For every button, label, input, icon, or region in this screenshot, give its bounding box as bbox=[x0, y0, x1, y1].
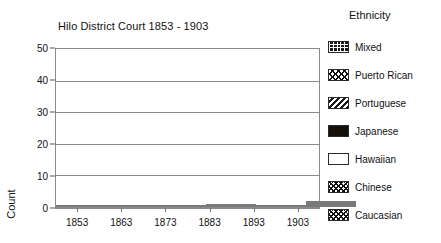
legend-item-japanese[interactable]: Japanese bbox=[328, 117, 441, 145]
bar-slot-1853 bbox=[56, 49, 106, 207]
bar-segment-1873-hawaiian[interactable] bbox=[156, 205, 206, 207]
y-tick-label-30: 30 bbox=[37, 107, 48, 118]
bar-1883[interactable] bbox=[206, 204, 256, 207]
bar-segment-1863-hawaiian[interactable] bbox=[106, 205, 156, 207]
y-tick-label-40: 40 bbox=[37, 75, 48, 86]
x-tick-label-1903: 1903 bbox=[276, 217, 320, 228]
bar-slot-1863 bbox=[106, 49, 156, 207]
bar-1873[interactable] bbox=[156, 205, 206, 207]
legend-item-puerto-rican[interactable]: Puerto Rican bbox=[328, 61, 441, 89]
legend-swatch-icon bbox=[328, 181, 349, 193]
legend-title: Ethnicity bbox=[349, 9, 391, 21]
chart-page: Hilo District Court 1853 - 1903 50 40 30… bbox=[0, 0, 441, 243]
plot-area bbox=[55, 48, 320, 208]
legend-item-chinese[interactable]: Chinese bbox=[328, 173, 441, 201]
legend-item-mixed[interactable]: Mixed bbox=[328, 33, 441, 61]
legend-item-label: Chinese bbox=[355, 182, 392, 193]
legend-item-label: Caucasian bbox=[355, 210, 402, 221]
y-tick-label-20: 20 bbox=[37, 139, 48, 150]
bar-group bbox=[56, 49, 319, 207]
bar-segment-1853-hawaiian[interactable] bbox=[56, 205, 106, 207]
legend-item-portuguese[interactable]: Portuguese bbox=[328, 89, 441, 117]
legend-swatch-icon bbox=[328, 153, 349, 165]
legend-item-label: Hawaiian bbox=[355, 154, 396, 165]
y-axis: 50 40 30 20 10 0 Count bbox=[0, 48, 55, 208]
legend: Ethnicity MixedPuerto RicanPortugueseJap… bbox=[325, 5, 441, 235]
x-tick-label-1853: 1853 bbox=[55, 217, 99, 228]
y-tick-label-0: 0 bbox=[42, 203, 48, 214]
x-tick-label-1863: 1863 bbox=[99, 217, 143, 228]
y-axis-label: Count bbox=[5, 169, 17, 239]
legend-item-label: Portuguese bbox=[355, 98, 406, 109]
legend-item-caucasian[interactable]: Caucasian bbox=[328, 201, 441, 229]
x-tick-labels: 1853 1863 1873 1883 1893 1903 bbox=[55, 208, 320, 228]
bar-segment-1883-caucasian[interactable] bbox=[206, 204, 256, 205]
legend-swatch-icon bbox=[328, 125, 349, 137]
bar-slot-1873 bbox=[156, 49, 206, 207]
legend-item-label: Puerto Rican bbox=[355, 70, 413, 81]
legend-swatch-icon bbox=[328, 69, 349, 81]
legend-item-hawaiian[interactable]: Hawaiian bbox=[328, 145, 441, 173]
bar-slot-1893 bbox=[256, 49, 306, 207]
bar-1853[interactable] bbox=[56, 205, 106, 207]
legend-swatch-icon bbox=[328, 97, 349, 109]
x-axis: 1853 1863 1873 1883 1893 1903 bbox=[55, 208, 320, 238]
legend-swatch-icon bbox=[328, 41, 349, 53]
bar-segment-1883-hawaiian[interactable] bbox=[206, 205, 256, 207]
y-tick-label-10: 10 bbox=[37, 171, 48, 182]
x-tick-label-1893: 1893 bbox=[232, 217, 276, 228]
x-tick-label-1883: 1883 bbox=[188, 217, 232, 228]
x-tick-label-1873: 1873 bbox=[143, 217, 187, 228]
legend-item-list: MixedPuerto RicanPortugueseJapaneseHawai… bbox=[328, 33, 441, 229]
bar-slot-1883 bbox=[206, 49, 256, 207]
bar-1893[interactable] bbox=[256, 205, 306, 207]
y-tick-label-50: 50 bbox=[37, 43, 48, 54]
bar-segment-1893-hawaiian[interactable] bbox=[256, 205, 306, 207]
bar-1863[interactable] bbox=[106, 205, 156, 207]
x-axis-line bbox=[55, 208, 320, 209]
page-title: Hilo District Court 1853 - 1903 bbox=[58, 20, 208, 32]
legend-swatch-icon bbox=[328, 209, 349, 221]
legend-item-label: Japanese bbox=[355, 126, 398, 137]
legend-item-label: Mixed bbox=[355, 42, 382, 53]
